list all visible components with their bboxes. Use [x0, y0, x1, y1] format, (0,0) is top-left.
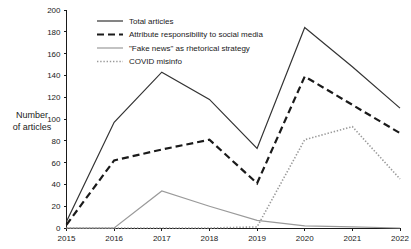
legend-label-2: "Fake news" as rhetorical strategy — [129, 44, 250, 53]
chart-container: Number of articles 020406080100120140160… — [0, 0, 411, 249]
y-tick-label: 100 — [47, 115, 61, 124]
series-line-2 — [67, 191, 401, 228]
y-tick-label: 180 — [47, 28, 61, 37]
legend-label-1: Attribute responsibility to social media — [129, 30, 263, 39]
y-axis-title-line2: of articles — [13, 122, 52, 132]
x-tick-label: 2020 — [296, 234, 314, 243]
x-tick-label: 2019 — [248, 234, 266, 243]
y-tick-label: 20 — [52, 202, 61, 211]
data-series-group — [67, 27, 401, 228]
series-line-0 — [67, 27, 401, 221]
y-tick-label: 160 — [47, 50, 61, 59]
series-line-1 — [67, 76, 401, 224]
x-tick-label: 2018 — [201, 234, 219, 243]
x-axis-ticks: 20152016201720182019202020212022 — [58, 228, 410, 243]
y-tick-label: 140 — [47, 71, 61, 80]
x-tick-label: 2015 — [58, 234, 76, 243]
line-chart: Number of articles 020406080100120140160… — [0, 0, 411, 249]
x-tick-label: 2016 — [105, 234, 123, 243]
chart-legend: Total articlesAttribute responsibility t… — [97, 17, 263, 67]
y-axis-ticks: 020406080100120140160180200 — [47, 6, 66, 233]
y-tick-label: 200 — [47, 6, 61, 15]
y-tick-label: 80 — [52, 137, 61, 146]
y-tick-label: 120 — [47, 93, 61, 102]
x-tick-label: 2022 — [391, 234, 409, 243]
legend-label-0: Total articles — [129, 17, 173, 26]
y-tick-label: 40 — [52, 180, 61, 189]
legend-label-3: COVID misinfo — [129, 57, 182, 66]
y-tick-label: 0 — [56, 224, 61, 233]
x-tick-label: 2021 — [343, 234, 361, 243]
y-axis-title: Number of articles — [13, 110, 52, 132]
x-tick-label: 2017 — [153, 234, 171, 243]
y-tick-label: 60 — [52, 159, 61, 168]
y-axis-title-line1: Number — [16, 110, 48, 120]
